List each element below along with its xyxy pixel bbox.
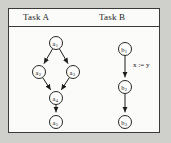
- edge-a1-to-a3: [60, 49, 69, 64]
- task-b-nodes: b1b2b3: [119, 43, 132, 129]
- node-a5: a5: [50, 116, 63, 129]
- edge-labels: x := y: [133, 61, 150, 69]
- graph-canvas: a1a2a3a4a5 b1b2b3 x := y: [9, 27, 159, 133]
- node-b2: b2: [119, 81, 132, 94]
- edge-a1-to-a2: [44, 49, 53, 64]
- diagram-panel: Task A Task B a1a2a3a4a5 b1b2b3 x := y: [8, 8, 160, 133]
- node-b3: b3: [119, 116, 132, 129]
- edge-a2-to-a4: [43, 78, 51, 90]
- task-a-nodes: a1a2a3a4a5: [33, 37, 80, 129]
- edge-a3-to-a4: [61, 78, 69, 90]
- edge-label-b1-b2: x := y: [133, 61, 150, 69]
- node-b1: b1: [119, 43, 132, 56]
- column-header-row: Task A Task B: [9, 9, 159, 27]
- task-graphs-svg: a1a2a3a4a5 b1b2b3 x := y: [9, 27, 161, 133]
- node-a4: a4: [50, 92, 63, 105]
- node-a3: a3: [67, 66, 80, 79]
- node-a2: a2: [33, 66, 46, 79]
- node-a1: a1: [50, 37, 63, 50]
- column-title-task-a: Task A: [23, 12, 49, 22]
- figure-root: Task A Task B a1a2a3a4a5 b1b2b3 x := y: [0, 0, 171, 143]
- column-title-task-b: Task B: [99, 12, 125, 22]
